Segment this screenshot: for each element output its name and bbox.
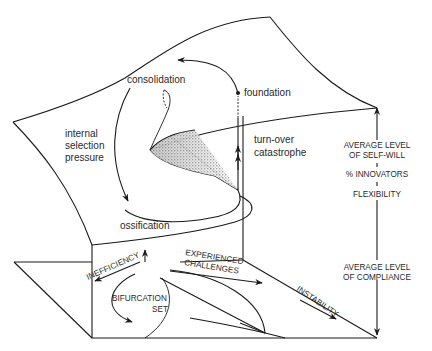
axis-label-compliance-2: OF COMPLIANCE: [343, 273, 411, 282]
label-turn-over: turn-over: [254, 134, 295, 145]
axis-label-compliance-1: AVERAGE LEVEL: [344, 263, 411, 272]
label-internal-selection-pressure-1: internal: [65, 128, 98, 139]
axis-label-innovators: % INNOVATORS: [346, 170, 409, 179]
cusp-catastrophe-diagram: consolidation foundation internal select…: [0, 0, 432, 351]
label-catastrophe: catastrophe: [254, 147, 307, 158]
axis-label-flexibility: FLEXIBILITY: [353, 190, 401, 199]
axis-label-self-will-1: AVERAGE LEVEL: [344, 141, 411, 150]
label-foundation: foundation: [244, 87, 291, 98]
label-internal-selection-pressure-2: selection: [65, 140, 104, 151]
axis-label-self-will-2: OF SELF-WILL: [349, 151, 405, 160]
label-set: SET: [152, 305, 168, 314]
label-instability: INSTABILITY: [295, 284, 341, 319]
label-bifurcation: BIFURCATION: [112, 294, 167, 303]
label-internal-selection-pressure-3: pressure: [65, 152, 104, 163]
label-ossification: ossification: [120, 220, 169, 231]
label-inefficiency: INEFFICIENCY: [85, 250, 141, 282]
label-consolidation: consolidation: [127, 74, 185, 85]
